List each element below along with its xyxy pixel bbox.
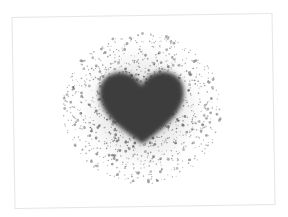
speckle-dot <box>130 182 132 184</box>
speckle-dot <box>179 171 181 173</box>
speckle-dot <box>102 46 103 47</box>
speckle-dot <box>92 54 93 55</box>
speckle-dot <box>74 72 75 73</box>
speckle-dot <box>67 130 68 131</box>
speckle-dot <box>204 66 205 67</box>
speckle-dot <box>67 87 68 88</box>
speckle-dot <box>189 50 190 51</box>
speckle-dot <box>81 64 83 66</box>
speckle-dot <box>212 139 213 140</box>
speckle-dot <box>66 110 68 112</box>
speckle-dot <box>63 103 65 105</box>
speckle-dot <box>192 166 193 167</box>
speckle-dot <box>205 144 207 146</box>
speckle-dot <box>204 69 205 70</box>
speckle-dot <box>195 54 196 55</box>
speckle-dot <box>72 80 73 81</box>
speckle-dot <box>164 179 166 181</box>
speckle-dot <box>72 139 73 140</box>
speckle-dot <box>67 132 68 133</box>
speckle-dot <box>97 169 99 171</box>
speckle-dot <box>185 48 186 49</box>
speckle-dot <box>199 63 200 64</box>
speckle-dot <box>217 98 218 99</box>
speckle-dot <box>218 94 219 95</box>
speckle-dot <box>86 160 88 162</box>
speckle-dot <box>208 142 209 143</box>
speckle-dot <box>66 101 68 103</box>
speckle-dot <box>208 77 210 79</box>
speckle-dot <box>84 60 86 62</box>
speckle-dot <box>190 165 191 166</box>
speckle-dot <box>111 37 114 40</box>
speckle-dot <box>216 106 217 107</box>
speckle-dot <box>152 182 153 183</box>
speckle-dot <box>208 72 209 73</box>
speckle-dot <box>109 175 110 176</box>
speckle-dot <box>65 125 66 126</box>
spray-art <box>13 14 275 208</box>
speckle-dot <box>197 159 198 160</box>
speckle-dot <box>63 115 65 117</box>
speckle-dot <box>89 53 90 54</box>
speckle-dot <box>175 40 176 41</box>
speckle-dot <box>67 91 69 93</box>
speckle-dot <box>90 53 91 54</box>
speckle-dot <box>202 150 204 152</box>
speckle-dot <box>64 105 66 107</box>
speckle-dot <box>69 85 70 86</box>
speckle-dot <box>72 73 73 74</box>
speckle-dot <box>215 131 217 133</box>
speckle-dot <box>161 35 162 36</box>
speckle-dot <box>114 176 115 177</box>
speckle-dot <box>125 178 126 179</box>
speckle-dot <box>90 160 93 163</box>
speckle-dot <box>64 124 66 126</box>
speckle-dot <box>176 176 177 177</box>
speckle-dot <box>93 51 95 53</box>
speckle-dot <box>212 142 214 144</box>
speckle-dot <box>172 176 173 177</box>
speckle-dot <box>212 72 214 74</box>
speckle-dot <box>204 148 206 150</box>
speckle-dot <box>115 38 116 39</box>
speckle-dot <box>204 153 205 154</box>
art-card <box>12 13 276 209</box>
speckle-dot <box>160 37 161 38</box>
speckle-dot <box>114 41 115 42</box>
speckle-dot <box>107 173 108 174</box>
speckle-dot <box>74 137 75 138</box>
speckle-dot <box>70 77 71 78</box>
speckle-dot <box>216 90 217 91</box>
speckle-dot <box>177 42 179 44</box>
speckle-dot <box>132 179 135 182</box>
speckle-dot <box>194 158 196 160</box>
speckle-dot <box>71 76 73 78</box>
speckle-dot <box>219 109 221 111</box>
speckle-dot <box>197 60 198 61</box>
speckle-dot <box>211 129 212 130</box>
speckle-dot <box>164 39 165 40</box>
speckle-dot <box>153 35 155 37</box>
speckle-dot <box>93 166 95 168</box>
speckle-dot <box>63 95 65 97</box>
speckle-dot <box>141 32 144 35</box>
speckle-dot <box>80 153 81 154</box>
speckle-dot <box>208 67 209 68</box>
speckle-dot <box>63 107 66 110</box>
speckle-dot <box>161 179 162 180</box>
speckle-dot <box>64 100 66 102</box>
speckle-dot <box>212 78 215 81</box>
speckle-dot <box>118 178 119 179</box>
speckle-dot <box>216 109 217 110</box>
speckle-dot <box>68 120 69 121</box>
